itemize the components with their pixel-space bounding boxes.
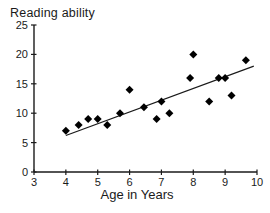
x-tick-label: 9 — [222, 176, 228, 188]
data-point — [205, 97, 213, 105]
x-tick-label: 8 — [190, 176, 196, 188]
data-point — [126, 86, 134, 94]
data-point — [186, 74, 194, 82]
data-point — [228, 92, 236, 100]
data-point — [94, 115, 102, 123]
data-point — [103, 121, 111, 129]
y-tick-label: 0 — [22, 166, 28, 178]
x-tick-label: 4 — [63, 176, 69, 188]
data-point — [75, 121, 83, 129]
y-tick-label: 5 — [22, 137, 28, 149]
y-tick-label: 10 — [16, 107, 28, 119]
data-point — [153, 115, 161, 123]
x-tick-label: 3 — [31, 176, 37, 188]
data-point — [84, 115, 92, 123]
y-tick-label: 25 — [16, 19, 28, 31]
data-point — [140, 103, 148, 111]
scatter-plot: 3456789100510152025Age in Years — [0, 0, 270, 213]
data-point — [62, 127, 70, 135]
x-axis-label: Age in Years — [100, 187, 174, 202]
y-tick-label: 15 — [16, 78, 28, 90]
data-point — [242, 56, 250, 64]
data-point — [189, 50, 197, 58]
x-tick-label: 10 — [251, 176, 263, 188]
data-point — [165, 109, 173, 117]
chart-figure: Reading ability 3456789100510152025Age i… — [0, 0, 270, 213]
y-tick-label: 20 — [16, 48, 28, 60]
